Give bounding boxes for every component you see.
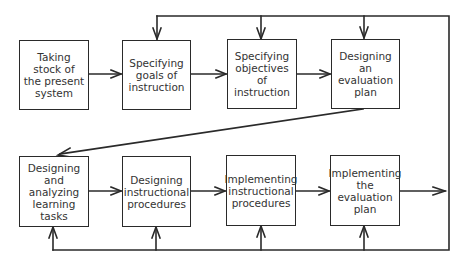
box-designing-learning-tasks: Designing and analyzing learning tasks	[19, 156, 89, 227]
box-specifying-objectives: Specifying objectives of instruction	[227, 39, 297, 109]
box-label: Implementing instructional procedures	[224, 173, 297, 209]
box-designing-procedures: Designing instructional procedures	[122, 156, 191, 227]
box-taking-stock: Taking stock of the present system	[19, 40, 89, 110]
box-label: Designing instructional procedures	[124, 174, 189, 210]
box-designing-evaluation-plan: Designing an evaluation plan	[331, 39, 400, 109]
box-implementing-procedures: Implementing instructional procedures	[226, 155, 296, 226]
box-label: Taking stock of the present system	[24, 51, 84, 99]
arrow-evaluation-to-learning-tasks	[60, 109, 363, 154]
box-label: Specifying objectives of instruction	[234, 50, 290, 98]
box-implementing-evaluation-plan: Implementing the evaluation plan	[330, 155, 400, 226]
flow-diagram: Taking stock of the present system Speci…	[0, 0, 466, 263]
box-specifying-goals: Specifying goals of instruction	[122, 40, 191, 110]
box-label: Implementing the evaluation plan	[328, 167, 401, 215]
box-label: Specifying goals of instruction	[128, 57, 184, 93]
box-label: Designing an evaluation plan	[338, 50, 393, 98]
box-label: Designing and analyzing learning tasks	[28, 162, 81, 222]
